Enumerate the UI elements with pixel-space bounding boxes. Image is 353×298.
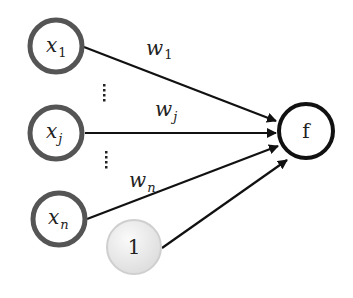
weight-label-wj: wj bbox=[155, 97, 177, 124]
weight-label-w1: w1 bbox=[146, 36, 172, 62]
ellipsis-dots-lower bbox=[105, 151, 108, 169]
bias-node: 1 bbox=[107, 220, 161, 274]
edges bbox=[84, 47, 287, 248]
perceptron-diagram: x1 xj xn 1 f w1 wj wn bbox=[0, 0, 353, 298]
input-node-x1: x1 bbox=[30, 20, 82, 72]
output-node-f: f bbox=[279, 104, 333, 158]
svg-text:1: 1 bbox=[128, 235, 141, 259]
weight-label-wn: wn bbox=[129, 168, 156, 195]
edge-bias-f bbox=[162, 160, 287, 248]
edge-xn-f bbox=[87, 146, 278, 219]
input-node-xj: xj bbox=[30, 107, 82, 159]
ellipsis-dots-upper bbox=[103, 84, 106, 102]
input-node-xn: xn bbox=[33, 193, 85, 245]
edge-x1-f bbox=[84, 47, 276, 121]
